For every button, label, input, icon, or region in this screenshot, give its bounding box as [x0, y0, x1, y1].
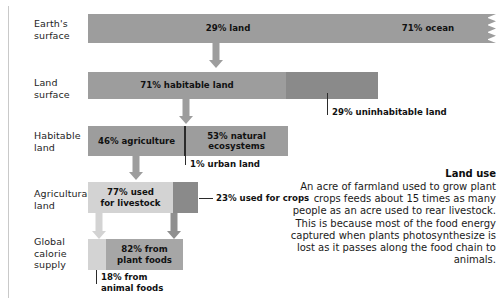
- annotation-line-2: animal foods: [101, 283, 163, 294]
- segment-label-line-2: for livestock: [100, 198, 160, 209]
- segment-land: 29% land: [88, 14, 368, 43]
- arrow-earth-to-land: [208, 43, 223, 68]
- segment-animal-foods: [88, 239, 106, 270]
- annotation-line-1: 18% from: [101, 272, 163, 283]
- segment-plant-foods: 82% from plant foods: [106, 239, 183, 270]
- annotation-animal-foods: 18% from animal foods: [101, 272, 163, 293]
- segment-label-line-1: 82% from: [121, 244, 167, 255]
- bar-global-calorie-supply: 82% from plant foods: [88, 239, 183, 270]
- bar-habitable-land: 46% agriculture 53% natural ecosystems: [88, 126, 288, 156]
- row-label-agricultural-land: Agricultural land: [34, 188, 96, 211]
- segment-label-line-2: plant foods: [117, 255, 172, 266]
- row-label-line-1: Earth's: [34, 18, 96, 30]
- land-use-heading: Land use: [288, 168, 496, 180]
- row-label-line-1: Habitable: [34, 130, 96, 142]
- row-label-line-2: land: [34, 142, 96, 154]
- segment-used-for-crops: [173, 182, 198, 213]
- row-label-line-3: supply: [34, 259, 96, 271]
- arrow-head: [129, 172, 143, 180]
- arrow-shaft: [170, 213, 177, 232]
- row-label-line-1: Land: [34, 77, 96, 89]
- segment-ocean: 71% ocean: [368, 14, 488, 43]
- segment-label-line-2: ecosystems: [208, 141, 265, 152]
- leader-animal-foods: [96, 270, 97, 284]
- arrow-shaft: [182, 99, 189, 117]
- row-label-line-2: land: [34, 200, 96, 212]
- row-label-habitable-land: Habitable land: [34, 130, 96, 153]
- torn-edge-decoration: [487, 14, 496, 43]
- row-label-line-1: Agricultural: [34, 188, 96, 200]
- arrow-head: [179, 116, 193, 124]
- segment-used-for-livestock: 77% used for livestock: [88, 182, 173, 213]
- row-label-line-2: surface: [34, 89, 96, 101]
- bar-agricultural-land: 77% used for livestock: [88, 182, 198, 213]
- leader-urban-land: [185, 156, 186, 165]
- land-use-text-block: Land use An acre of farmland used to gro…: [288, 168, 496, 266]
- segment-label-line-1: 77% used: [107, 187, 154, 198]
- segment-uninhabitable-land: [286, 72, 378, 99]
- arrow-shaft: [95, 213, 102, 232]
- row-label-line-2: calorie: [34, 248, 96, 260]
- arrow-shaft: [132, 156, 139, 173]
- arrow-crops-to-plant-foods: [166, 213, 181, 239]
- segment-label-line-1: 53% natural: [207, 131, 266, 142]
- bar-land-surface: 71% habitable land: [88, 72, 378, 99]
- row-label-line-2: surface: [34, 30, 96, 42]
- leader-used-for-crops: [199, 198, 213, 199]
- segment-habitable-land: 71% habitable land: [88, 72, 286, 99]
- arrow-head: [167, 231, 181, 239]
- arrow-habitable-to-agricultural: [128, 156, 143, 180]
- arrow-shaft: [212, 43, 219, 61]
- leader-uninhabitable-land: [327, 93, 328, 115]
- divider-urban-land: [184, 126, 186, 156]
- annotation-urban-land: 1% urban land: [190, 159, 260, 170]
- annotation-uninhabitable-land: 29% uninhabitable land: [332, 107, 447, 118]
- arrow-land-to-habitable: [178, 99, 193, 124]
- segment-natural-ecosystems: 53% natural ecosystems: [185, 126, 288, 156]
- segment-agriculture: 46% agriculture: [88, 126, 185, 156]
- land-use-infographic: Earth's surface 29% land 71% ocean Land …: [0, 0, 503, 304]
- arrow-head: [209, 60, 223, 68]
- row-label-land-surface: Land surface: [34, 77, 96, 100]
- row-label-line-1: Global: [34, 236, 96, 248]
- land-use-body: An acre of farmland used to grow plant c…: [288, 181, 496, 266]
- row-label-earths-surface: Earth's surface: [34, 18, 96, 41]
- bar-earths-surface: 29% land 71% ocean: [88, 14, 488, 43]
- row-label-global-calorie-supply: Global calorie supply: [34, 236, 96, 271]
